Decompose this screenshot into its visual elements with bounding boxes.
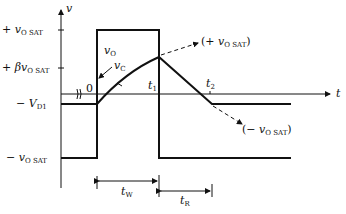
target-pos-label: (+ vO SAT): [201, 36, 251, 49]
y-axis-label: v: [66, 3, 72, 14]
vc-waveform: [97, 57, 291, 104]
target-neg-label: (− vO SAT): [242, 124, 292, 137]
time-origin: 0: [86, 83, 93, 94]
time-t2: t2: [206, 78, 215, 91]
level-minus-vd1: − VD1: [16, 98, 47, 111]
level-plus-vosat: + vO SAT: [2, 24, 43, 37]
time-t1: t1: [148, 80, 157, 93]
waveform-diagram: [0, 0, 346, 214]
vc-label: vC: [114, 60, 126, 73]
tw-label: tW: [121, 186, 133, 199]
level-minus-vosat: − vO SAT: [6, 152, 47, 165]
vo-label: vO: [104, 45, 116, 58]
tr-label: tR: [180, 195, 190, 208]
level-plus-beta-vosat: + βvO SAT: [2, 62, 49, 75]
t-axis-label: t: [336, 88, 340, 99]
